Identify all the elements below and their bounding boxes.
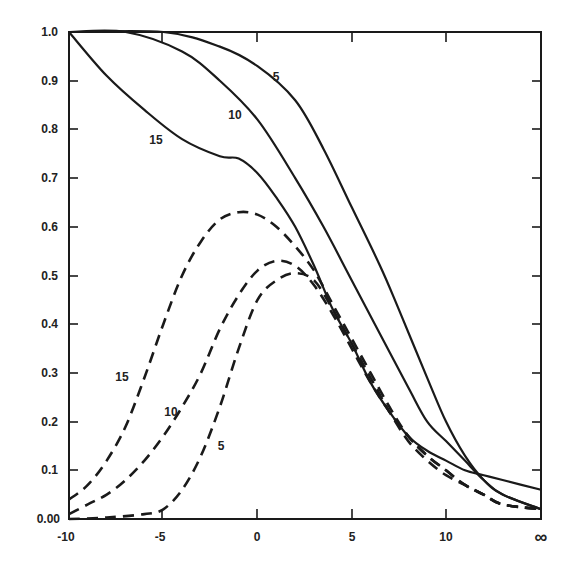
label-dashed-15: 15 (115, 370, 129, 384)
y-tick-labels: 1.0 0.9 0.8 0.7 0.6 0.5 0.4 0.3 0.2 0.1 … (37, 25, 61, 526)
y-tick-label: 0.1 (41, 463, 58, 477)
curve-solid-10 (69, 31, 541, 510)
y-tick-label: 0.00 (37, 512, 61, 526)
chart: 1.0 0.9 0.8 0.7 0.6 0.5 0.4 0.3 0.2 0.1 … (0, 0, 573, 576)
x-tick-label: -10 (57, 530, 75, 544)
y-tick-label: 0.4 (41, 317, 58, 331)
y-tick-label: 0.7 (41, 171, 58, 185)
label-solid-5: 5 (273, 70, 280, 84)
x-tick-label-infinity: ∞ (535, 527, 548, 547)
label-dashed-5: 5 (218, 439, 225, 453)
curve-labels: 5 10 15 15 10 5 (115, 70, 279, 453)
x-tick-label: 10 (439, 530, 453, 544)
y-tick-label: 0.2 (41, 415, 58, 429)
y-tick-label: 0.8 (41, 122, 58, 136)
x-tick-label: -5 (155, 530, 166, 544)
curve-solid-5 (69, 31, 541, 509)
label-dashed-10: 10 (164, 405, 178, 419)
x-tick-label: 5 (349, 530, 356, 544)
curves (69, 31, 541, 519)
y-tick-label: 0.6 (41, 220, 58, 234)
y-tick-label: 0.3 (41, 366, 58, 380)
label-solid-10: 10 (228, 108, 242, 122)
label-solid-15: 15 (149, 133, 163, 147)
y-tick-label: 0.5 (41, 269, 58, 283)
y-tick-label: 1.0 (41, 25, 58, 39)
curve-dashed-5 (69, 273, 541, 519)
curve-solid-15 (69, 32, 541, 490)
x-tick-labels: -10 -5 0 5 10 ∞ (57, 527, 547, 547)
x-tick-label: 0 (254, 530, 261, 544)
y-tick-label: 0.9 (41, 74, 58, 88)
